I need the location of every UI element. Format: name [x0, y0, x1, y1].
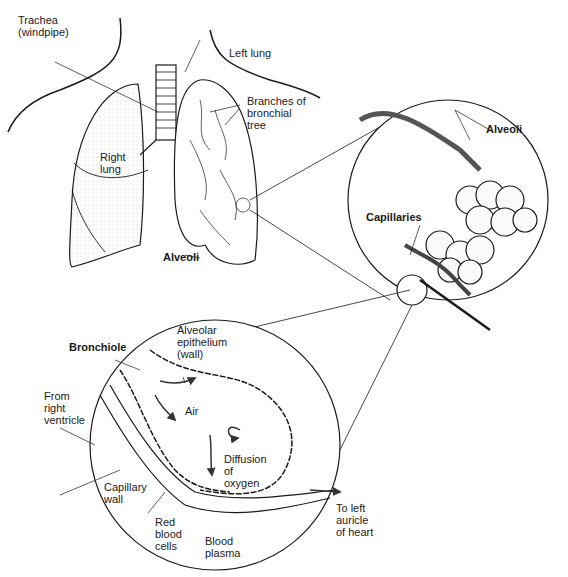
- label-alveolar-epithelium: Alveolar epithelium (wall): [177, 324, 227, 360]
- label-diffusion-of-oxygen: Diffusion of oxygen: [224, 453, 267, 489]
- illustration: [0, 0, 568, 577]
- label-left-lung: Left lung: [229, 47, 271, 59]
- label-to-left-auricle: To left auricle of heart: [336, 502, 373, 538]
- label-alveoli-zoom: Alveoli: [486, 123, 522, 135]
- label-right-lung: Right lung: [100, 151, 126, 175]
- label-red-blood-cells: Red blood cells: [155, 516, 182, 552]
- neck-shoulder-right: [210, 30, 320, 98]
- label-branches-bronchial-tree: Branches of bronchial tree: [247, 95, 306, 131]
- trachea: [156, 65, 176, 140]
- left-lung: [174, 80, 257, 264]
- label-capillary-wall: Capillary wall: [104, 481, 147, 505]
- label-air: Air: [185, 405, 198, 417]
- label-alveoli-lung: Alveoli: [163, 251, 199, 263]
- label-trachea: Trachea (windpipe): [18, 14, 69, 38]
- label-capillaries: Capillaries: [366, 211, 422, 223]
- label-bronchiole: Bronchiole: [69, 341, 126, 353]
- label-blood-plasma: Blood plasma: [205, 535, 240, 559]
- respiratory-diagram: Trachea (windpipe) Left lung Branches of…: [0, 0, 568, 577]
- label-from-right-ventricle: From right ventricle: [44, 390, 85, 426]
